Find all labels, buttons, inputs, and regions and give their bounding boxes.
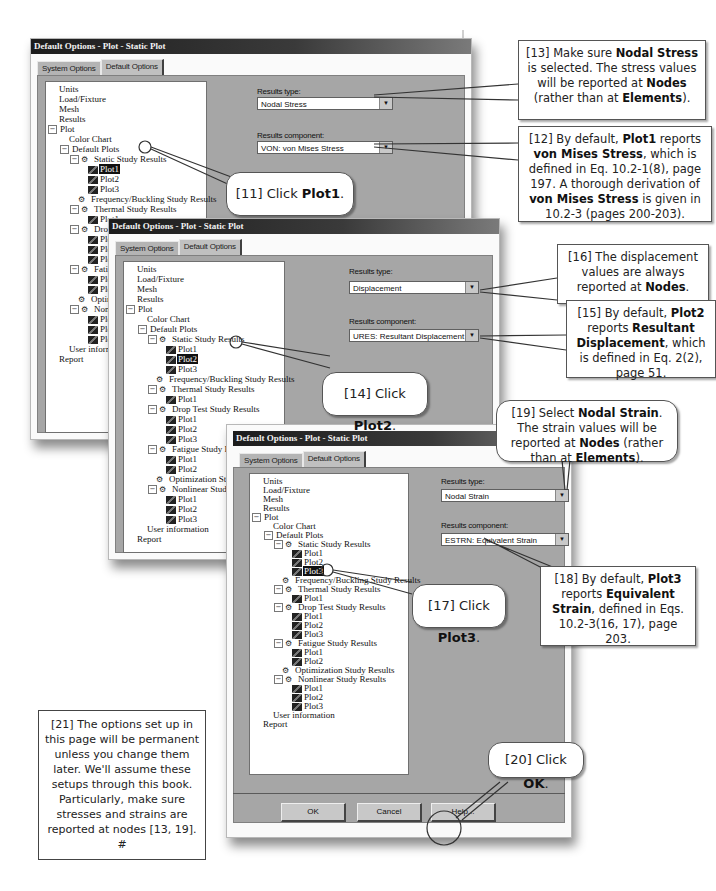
results-component-label: Results component:: [441, 521, 508, 530]
results-component-select[interactable]: URES: Resultant Displacement▼: [349, 329, 479, 342]
tab-default-options[interactable]: Default Options: [303, 451, 366, 468]
callout-14: [14] Click Plot2.: [322, 372, 428, 416]
results-component-select[interactable]: VON: von Mises Stress▼: [257, 141, 393, 154]
callout-11: [11] Click Plot1.: [226, 172, 354, 216]
callout-19: [19] Select Nodal Strain. The strain val…: [496, 400, 678, 462]
plot-icon: [166, 496, 176, 504]
tab-system-options[interactable]: System Options: [37, 61, 101, 76]
collapse-icon[interactable]: −: [148, 485, 157, 494]
button-separator: [233, 793, 565, 794]
collapse-icon[interactable]: −: [126, 305, 135, 314]
study-icon: ⚙: [159, 386, 170, 394]
plot-icon: [88, 236, 98, 244]
study-icon: ⚙: [159, 446, 170, 454]
collapse-icon[interactable]: −: [148, 385, 157, 394]
tab-strip: System Options Default Options: [115, 239, 242, 255]
tree-item-thermal-study[interactable]: −⚙Thermal Study Results: [274, 584, 382, 595]
tree-item-report[interactable]: Report: [136, 534, 163, 545]
results-type-select[interactable]: Nodal Stress▼: [257, 97, 393, 110]
collapse-icon[interactable]: −: [274, 540, 283, 549]
callout-13: [13] Make sure Nodal Stress is selected.…: [518, 40, 706, 120]
plot-icon: [166, 426, 176, 434]
tab-default-options[interactable]: Default Options: [179, 239, 242, 256]
collapse-icon[interactable]: −: [274, 585, 283, 594]
study-icon: ⚙: [81, 226, 92, 234]
tree-item-drop-test-study[interactable]: −⚙Drop Test Study Results: [274, 602, 386, 613]
collapse-icon[interactable]: −: [148, 405, 157, 414]
study-icon: ⚙: [159, 336, 170, 344]
dropdown-arrow-icon[interactable]: ▼: [379, 142, 392, 153]
dialog-title: Default Options - Plot - Static Plot: [109, 219, 499, 234]
tab-system-options[interactable]: System Options: [239, 453, 303, 468]
tree-item-report[interactable]: Report: [262, 719, 289, 730]
collapse-icon[interactable]: −: [148, 445, 157, 454]
plot-icon: [166, 456, 176, 464]
plot-icon: [88, 186, 98, 194]
collapse-icon[interactable]: −: [70, 155, 79, 164]
collapse-icon[interactable]: −: [70, 205, 79, 214]
cancel-button[interactable]: Cancel: [357, 803, 422, 822]
callout-18: [18] By default, Plot3 reports Equivalen…: [540, 566, 696, 646]
collapse-icon[interactable]: −: [70, 225, 79, 234]
plot-icon: [166, 346, 176, 354]
ok-button[interactable]: OK: [281, 803, 346, 822]
collapse-icon[interactable]: −: [274, 603, 283, 612]
study-icon: ⚙: [156, 376, 167, 384]
tree-item-report[interactable]: Report: [58, 354, 85, 365]
plot-icon: [166, 356, 176, 364]
collapse-icon[interactable]: −: [70, 265, 79, 274]
plot-icon: [88, 336, 98, 344]
help-button[interactable]: Help...: [431, 803, 496, 822]
dropdown-arrow-icon[interactable]: ▼: [379, 98, 392, 109]
tab-strip: System Options Default Options: [37, 59, 164, 75]
dropdown-arrow-icon[interactable]: ▼: [465, 282, 478, 293]
collapse-icon[interactable]: −: [264, 531, 273, 540]
collapse-icon[interactable]: −: [274, 675, 283, 684]
tree-item-fatigue-study[interactable]: −⚙Fatigue Study Results: [274, 638, 378, 649]
plot-icon: [88, 256, 98, 264]
study-icon: ⚙: [78, 196, 89, 204]
callout-15: [15] By default, Plot2 reports Resultant…: [566, 300, 716, 378]
dialog-title: Default Options - Plot - Static Plot: [31, 39, 471, 54]
collapse-icon[interactable]: −: [138, 325, 147, 334]
callout-20: [20] Click OK.: [488, 742, 584, 778]
plot-icon: [166, 516, 176, 524]
collapse-icon[interactable]: −: [60, 145, 69, 154]
plot-icon: [88, 326, 98, 334]
tab-system-options[interactable]: System Options: [115, 241, 179, 256]
dropdown-arrow-icon[interactable]: ▼: [555, 490, 568, 501]
tree-item-drop-test-study[interactable]: −⚙Drop Test Study Results: [148, 404, 260, 415]
results-type-select[interactable]: Displacement▼: [349, 281, 479, 294]
study-icon: ⚙: [81, 206, 92, 214]
plot-icon: [88, 176, 98, 184]
collapse-icon[interactable]: −: [252, 513, 261, 522]
study-icon: ⚙: [78, 296, 89, 304]
tree-item-thermal-study[interactable]: −⚙Thermal Study Results: [70, 204, 178, 215]
collapse-icon[interactable]: −: [274, 639, 283, 648]
callout-16: [16] The displacement values are always …: [557, 244, 709, 304]
plot-icon: [166, 366, 176, 374]
plot-icon: [88, 286, 98, 294]
results-type-label: Results type:: [349, 267, 393, 276]
collapse-icon[interactable]: −: [70, 305, 79, 314]
tab-default-options[interactable]: Default Options: [101, 59, 164, 76]
tree-item-nonlinear-study[interactable]: −⚙Nonlinear Study Results: [274, 674, 387, 685]
results-type-select[interactable]: Nodal Strain▼: [441, 489, 569, 502]
tree-item-thermal-study[interactable]: −⚙Thermal Study Results: [148, 384, 256, 395]
results-component-label: Results component:: [257, 131, 324, 140]
collapse-icon[interactable]: −: [48, 125, 57, 134]
study-icon: ⚙: [159, 406, 170, 414]
plot-icon: [88, 276, 98, 284]
callout-12: [12] By default, Plot1 reports von Mises…: [518, 126, 712, 222]
study-icon: ⚙: [156, 476, 167, 484]
plot-icon: [88, 166, 98, 174]
dropdown-arrow-icon[interactable]: ▼: [465, 330, 478, 341]
results-component-label: Results component:: [349, 317, 416, 326]
callout-17: [17] Click Plot3.: [412, 584, 506, 628]
tab-strip: System Options Default Options: [239, 451, 366, 467]
results-component-select[interactable]: ESTRN: Equivalent Strain▼: [441, 533, 569, 546]
study-icon: ⚙: [81, 156, 92, 164]
dropdown-arrow-icon[interactable]: ▼: [555, 534, 568, 545]
collapse-icon[interactable]: −: [148, 335, 157, 344]
note-21: [21] The options set up in this page wil…: [38, 710, 206, 860]
